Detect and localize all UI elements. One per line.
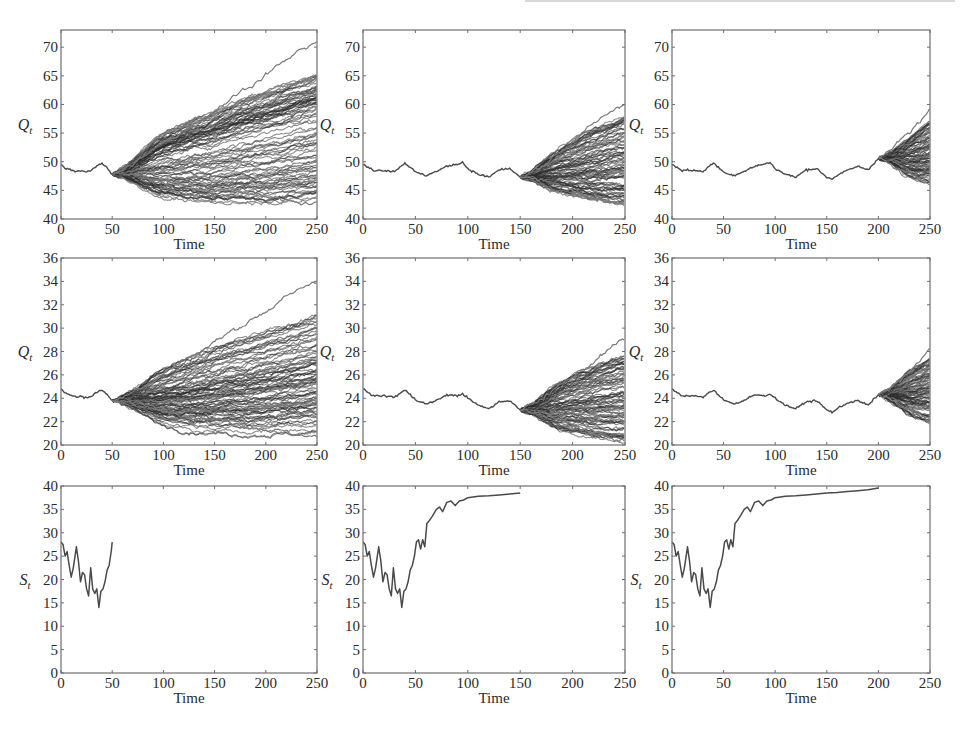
y-tick-label: 32 xyxy=(43,297,58,313)
x-tick-label: 150 xyxy=(816,675,839,691)
x-tick-label: 250 xyxy=(614,675,637,691)
x-tick-label: 0 xyxy=(57,675,65,691)
x-axis-label: Time xyxy=(173,236,204,252)
y-axis-label: Qt xyxy=(18,343,34,363)
y-tick-label: 34 xyxy=(43,273,59,289)
x-axis-label: Time xyxy=(478,462,509,478)
y-tick-label: 30 xyxy=(345,320,360,336)
x-tick-label: 150 xyxy=(816,221,839,237)
subplot-r2c2: 050100150200250202224262830323436TimeQt xyxy=(320,250,637,478)
plot-area xyxy=(363,493,520,608)
observed-path xyxy=(61,163,112,174)
observed-path xyxy=(672,158,878,179)
x-tick-label: 250 xyxy=(306,675,329,691)
series-line xyxy=(672,488,878,608)
x-tick-label: 150 xyxy=(509,675,532,691)
subplot-r2c1: 050100150200250202224262830323436TimeQt xyxy=(18,250,329,478)
x-tick-label: 250 xyxy=(919,221,942,237)
y-axis-label: Qt xyxy=(320,343,336,363)
axes-frame xyxy=(363,486,625,673)
y-tick-label: 30 xyxy=(654,525,669,541)
y-tick-label: 32 xyxy=(345,297,360,313)
y-tick-label: 22 xyxy=(345,414,360,430)
x-tick-label: 100 xyxy=(457,675,480,691)
simulated-paths xyxy=(112,282,316,438)
x-tick-label: 100 xyxy=(152,447,175,463)
plot-area xyxy=(672,109,930,185)
y-tick-label: 20 xyxy=(43,572,58,588)
subplot-r1c2: 05010015020025040455055606570TimeQt xyxy=(320,30,637,252)
x-tick-label: 200 xyxy=(561,675,584,691)
y-tick-label: 50 xyxy=(654,154,669,170)
y-tick-label: 28 xyxy=(43,344,58,360)
y-tick-label: 20 xyxy=(43,437,58,453)
subplot-r3c1: 0501001502002500510152025303540TimeSt xyxy=(19,478,328,706)
y-axis-label: Qt xyxy=(320,116,336,136)
x-tick-label: 50 xyxy=(716,221,731,237)
x-tick-label: 0 xyxy=(668,447,676,463)
y-tick-label: 55 xyxy=(43,125,58,141)
y-tick-label: 30 xyxy=(345,525,360,541)
x-tick-label: 200 xyxy=(561,447,584,463)
y-tick-label: 70 xyxy=(345,39,360,55)
x-axis-label: Time xyxy=(478,236,509,252)
y-tick-label: 22 xyxy=(654,414,669,430)
subplot-r3c3: 0501001502002500510152025303540TimeSt xyxy=(630,478,941,706)
x-tick-label: 250 xyxy=(919,675,942,691)
y-tick-label: 30 xyxy=(43,525,58,541)
y-tick-label: 20 xyxy=(654,572,669,588)
y-tick-label: 45 xyxy=(345,182,360,198)
y-tick-label: 60 xyxy=(654,96,669,112)
y-tick-label: 10 xyxy=(654,618,669,634)
y-tick-label: 50 xyxy=(345,154,360,170)
y-tick-label: 10 xyxy=(345,618,360,634)
x-tick-label: 50 xyxy=(105,675,120,691)
x-tick-label: 50 xyxy=(716,447,731,463)
y-tick-label: 40 xyxy=(43,211,58,227)
y-tick-label: 15 xyxy=(654,595,669,611)
y-tick-label: 55 xyxy=(345,125,360,141)
x-tick-label: 150 xyxy=(816,447,839,463)
y-tick-label: 70 xyxy=(654,39,669,55)
x-tick-label: 150 xyxy=(203,447,226,463)
simulated-paths xyxy=(878,348,929,424)
y-tick-label: 24 xyxy=(345,390,361,406)
y-tick-label: 50 xyxy=(43,154,58,170)
y-tick-label: 30 xyxy=(654,320,669,336)
x-tick-label: 250 xyxy=(306,221,329,237)
y-tick-label: 36 xyxy=(345,250,361,266)
series-line xyxy=(61,542,112,607)
x-tick-label: 150 xyxy=(509,447,532,463)
y-axis-label: St xyxy=(321,571,333,591)
y-tick-label: 45 xyxy=(43,182,58,198)
y-tick-label: 0 xyxy=(662,665,670,681)
subplot-r1c3: 05010015020025040455055606570TimeQt xyxy=(629,30,942,252)
plot-area xyxy=(672,348,930,424)
x-tick-label: 0 xyxy=(359,221,367,237)
x-tick-label: 250 xyxy=(306,447,329,463)
y-tick-label: 40 xyxy=(345,211,360,227)
plot-area xyxy=(363,105,624,206)
x-tick-label: 100 xyxy=(764,221,787,237)
y-tick-label: 45 xyxy=(654,182,669,198)
x-axis-label: Time xyxy=(785,462,816,478)
x-tick-label: 250 xyxy=(614,221,637,237)
plot-area xyxy=(61,282,317,438)
y-tick-label: 40 xyxy=(43,478,58,494)
y-tick-label: 25 xyxy=(654,548,669,564)
x-tick-label: 200 xyxy=(255,675,278,691)
y-tick-label: 0 xyxy=(51,665,59,681)
x-axis-label: Time xyxy=(785,236,816,252)
axes-frame xyxy=(672,30,930,219)
x-tick-label: 0 xyxy=(359,447,367,463)
y-tick-label: 35 xyxy=(43,501,58,517)
y-tick-label: 65 xyxy=(43,68,58,84)
simulated-paths xyxy=(878,109,929,185)
y-tick-label: 34 xyxy=(345,273,361,289)
x-axis-label: Time xyxy=(173,462,204,478)
simulated-paths xyxy=(520,339,624,443)
y-tick-label: 35 xyxy=(345,501,360,517)
observed-path xyxy=(672,389,878,413)
x-tick-label: 50 xyxy=(105,447,120,463)
x-tick-label: 100 xyxy=(764,447,787,463)
